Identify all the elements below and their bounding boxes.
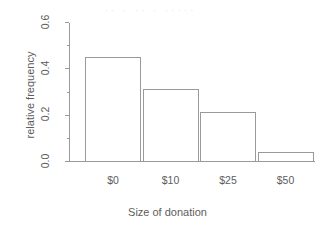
bar-usd0 <box>86 57 141 161</box>
y-tick-label-1: 0.2 <box>39 99 51 129</box>
bar-usd50 <box>258 152 313 161</box>
x-tick-label-2: $25 <box>198 174 258 186</box>
x-tick-label-0: $0 <box>83 174 143 186</box>
y-axis-title: relative frequency <box>24 20 38 170</box>
y-axis <box>65 23 69 162</box>
bar-chart-figure: ·· · ·· · ····· 0.00.20.40.6 $0$10$25$50… <box>0 0 335 234</box>
x-tick-label-3: $50 <box>256 174 316 186</box>
y-tick-label-2: 0.4 <box>39 53 51 83</box>
y-tick-label-0: 0.0 <box>39 146 51 176</box>
bar-usd10 <box>143 90 198 162</box>
y-tick-label-3: 0.6 <box>39 7 51 37</box>
x-axis-title: Size of donation <box>0 206 335 218</box>
x-tick-label-1: $10 <box>141 174 201 186</box>
bars <box>86 57 314 161</box>
bar-usd25 <box>201 113 256 162</box>
